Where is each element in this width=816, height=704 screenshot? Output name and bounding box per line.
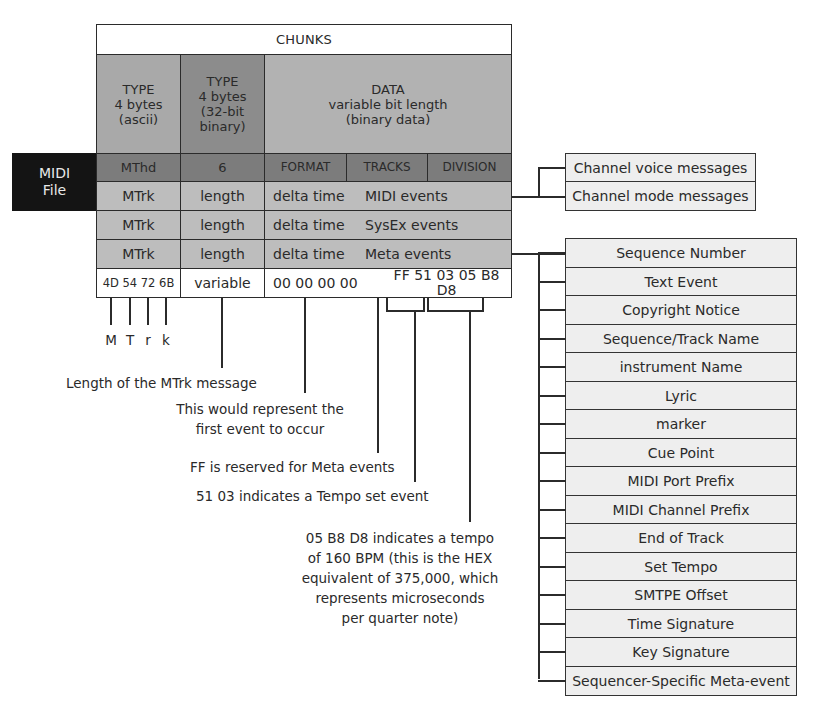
tick-line-m (110, 298, 112, 325)
meta-event-connector (538, 509, 566, 511)
tempo-line3: equivalent of 375,000, which (300, 568, 500, 588)
mtrk-type: MTrk (122, 189, 154, 204)
meta-event-label: MIDI Port Prefix (627, 473, 734, 489)
meta-event-connector (538, 680, 566, 682)
meta-event-label: instrument Name (620, 359, 743, 375)
column-type-binary: TYPE 4 bytes (32-bit binary) (180, 54, 265, 154)
col-ascii-line1: TYPE (123, 82, 155, 97)
hex-events: FF 51 03 05 B8 D8 (382, 268, 511, 298)
mtrk-row-1-data: delta time MIDI events (264, 181, 512, 211)
meta-event-item: Key Signature (565, 637, 797, 667)
meta-event-item: Sequencer-Specific Meta-event (565, 666, 797, 696)
meta-event-item: Sequence/Track Name (565, 324, 797, 354)
meta-event-item: SMTPE Offset (565, 580, 797, 610)
meta-event-label: End of Track (638, 530, 724, 546)
ff-annotation: FF is reserved for Meta events (190, 457, 390, 477)
hex-type-cell: 4D 54 72 6B (96, 268, 181, 298)
tick-line-t (129, 298, 131, 325)
meta-event-connector (538, 594, 566, 596)
meta-event-label: Cue Point (648, 445, 714, 461)
meta-event-item: Time Signature (565, 609, 797, 639)
mthd-format: FORMAT (281, 160, 331, 175)
midi-file-label: MIDI File (12, 153, 97, 211)
channel-voice-connector (538, 167, 566, 169)
mtrk-row-2-length: length (180, 210, 265, 240)
tick-line-k (165, 298, 167, 325)
meta-event-item: marker (565, 409, 797, 439)
length-annotation: Length of the MTrk message (66, 373, 306, 393)
length-pointer-line (221, 298, 223, 368)
meta-event-label: Set Tempo (644, 559, 717, 575)
channel-mode-label: Channel mode messages (572, 188, 748, 204)
mthd-format-cell: FORMAT (264, 153, 347, 182)
mthd-length-cell: 6 (180, 153, 265, 182)
tempo-line2: of 160 BPM (this is the HEX (300, 548, 500, 568)
meta-event-item: End of Track (565, 523, 797, 553)
col-data-line2: variable bit length (328, 97, 447, 112)
mthd-tracks-cell: TRACKS (346, 153, 428, 182)
hex-type: 4D 54 72 6B (103, 276, 175, 291)
meta-event-item: MIDI Channel Prefix (565, 495, 797, 525)
letter-r: r (141, 330, 155, 350)
mtrk-type: MTrk (122, 247, 154, 262)
col-binary-line4: binary) (199, 119, 245, 134)
tempo-set-pointer-line (414, 310, 416, 482)
col-data-line1: DATA (371, 82, 405, 97)
mtrk-row-2-data: delta time SysEx events (264, 210, 512, 240)
mthd-tracks: TRACKS (363, 160, 410, 175)
meta-event-label: Sequencer-Specific Meta-event (572, 673, 790, 689)
midi-events-connector (511, 196, 539, 198)
meta-event-connector (538, 423, 566, 425)
meta-event-item: Set Tempo (565, 552, 797, 582)
meta-event-item: MIDI Port Prefix (565, 466, 797, 496)
meta-event-connector (538, 651, 566, 653)
meta-event-label: Lyric (665, 388, 697, 404)
mtrk-row-3-length: length (180, 239, 265, 269)
meta-event-label: Time Signature (628, 616, 734, 632)
meta-event-connector (538, 623, 566, 625)
channel-voice-messages-box: Channel voice messages (565, 153, 756, 183)
meta-event-item: Sequence Number (565, 238, 797, 268)
meta-event-label: Text Event (645, 274, 718, 290)
col-binary-line1: TYPE (207, 74, 239, 89)
bracket-tempo-bottom (427, 310, 484, 312)
mtrk-type: MTrk (122, 218, 154, 233)
mtrk-length: length (200, 218, 245, 233)
chunks-title: CHUNKS (96, 24, 512, 55)
bracket-5103-bottom (386, 310, 425, 312)
hex-length: variable (194, 276, 250, 291)
mthd-type-cell: MThd (96, 153, 181, 182)
meta-event-label: Copyright Notice (622, 302, 740, 318)
tempo-line1: 05 B8 D8 indicates a tempo (300, 528, 500, 548)
hex-delta: 00 00 00 00 (273, 276, 382, 291)
meta-event-item: Lyric (565, 381, 797, 411)
tick-line-r (147, 298, 149, 325)
mtrk-length: length (200, 189, 245, 204)
mtrk-delta: delta time (273, 247, 365, 262)
mtrk-delta: delta time (273, 218, 365, 233)
hex-data-cell: 00 00 00 00 FF 51 03 05 B8 D8 (264, 268, 512, 298)
meta-event-label: Key Signature (632, 644, 729, 660)
col-binary-line3: (32-bit (201, 104, 244, 119)
mtrk-row-1-length: length (180, 181, 265, 211)
mthd-division: DIVISION (442, 160, 496, 175)
tempo-line4: represents microseconds (300, 588, 500, 608)
channel-voice-label: Channel voice messages (574, 160, 748, 176)
meta-event-label: MIDI Channel Prefix (613, 502, 750, 518)
meta-event-connector (538, 395, 566, 397)
col-binary-line2: 4 bytes (198, 89, 246, 104)
meta-event-label: Sequence Number (616, 245, 746, 261)
letter-m: M (104, 330, 118, 350)
meta-event-connector (538, 452, 566, 454)
meta-event-connector (538, 480, 566, 482)
mtrk-row-2-type: MTrk (96, 210, 181, 240)
tempo-value-annotation: 05 B8 D8 indicates a tempo of 160 BPM (t… (300, 528, 500, 628)
meta-event-item: instrument Name (565, 352, 797, 382)
chunks-title-text: CHUNKS (276, 32, 332, 47)
channel-mode-messages-box: Channel mode messages (565, 181, 756, 211)
mtrk-delta: delta time (273, 189, 365, 204)
tempo-set-annotation: 51 03 indicates a Tempo set event (196, 486, 416, 506)
channel-bracket-vertical (538, 167, 540, 197)
first-event-line2: first event to occur (160, 419, 360, 439)
mthd-type: MThd (121, 160, 157, 175)
